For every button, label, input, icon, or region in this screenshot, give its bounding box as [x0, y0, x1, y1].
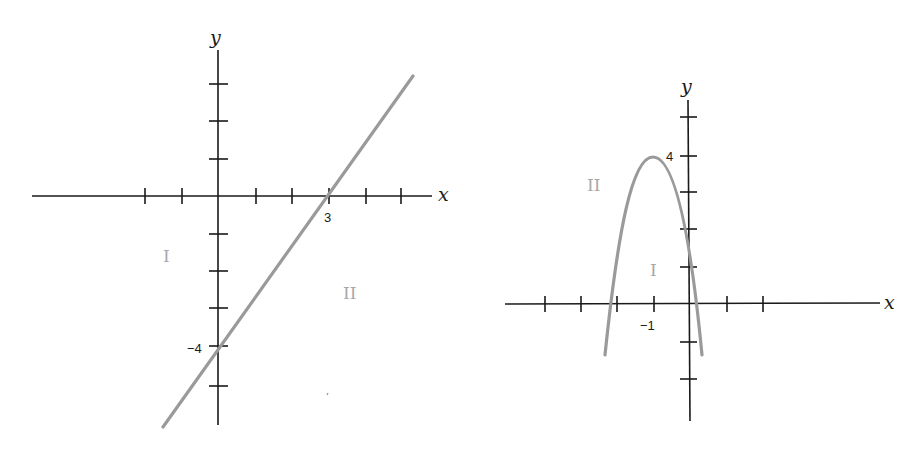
right-y-axis-label: y: [680, 75, 692, 97]
right-region-label-II: II: [587, 175, 600, 195]
diagram-canvas: y x 3 −4 I II: [0, 0, 915, 456]
left-linear-curve: [163, 76, 413, 427]
left-x-tick-label-3: 3: [324, 210, 331, 225]
right-region-label-I: I: [650, 260, 657, 280]
right-x-axis-label: x: [884, 291, 895, 313]
left-y-tick-label-neg4: −4: [187, 341, 202, 356]
left-x-axis-label: x: [438, 183, 449, 205]
left-region-label-I: I: [163, 246, 170, 266]
right-y-tick-label-4: 4: [666, 149, 673, 164]
left-y-axis-label: y: [209, 26, 221, 48]
left-region-label-II: II: [343, 283, 356, 303]
right-x-tick-label-neg1: −1: [640, 318, 655, 333]
right-graph: y x 4 −1 II I: [505, 75, 895, 421]
right-x-axis: [505, 303, 880, 304]
speck: [327, 393, 328, 395]
left-graph: y x 3 −4 I II: [32, 26, 449, 427]
